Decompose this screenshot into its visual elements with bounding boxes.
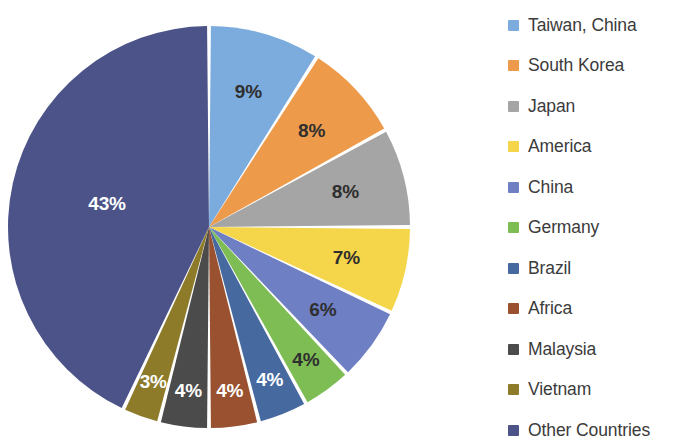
- legend-item[interactable]: America: [508, 127, 695, 168]
- legend-color-swatch-icon: [508, 101, 519, 112]
- pie-slice-label: 8%: [332, 181, 359, 202]
- legend-color-swatch-icon: [508, 263, 519, 274]
- legend-item-label: Vietnam: [528, 379, 591, 400]
- pie-plot-area: 9%8%8%7%6%4%4%4%4%3%43%: [0, 0, 440, 442]
- pie-svg: 9%8%8%7%6%4%4%4%4%3%43%: [0, 0, 440, 442]
- legend-color-swatch-icon: [508, 303, 519, 314]
- legend-color-swatch-icon: [508, 222, 519, 233]
- legend-color-swatch-icon: [508, 182, 519, 193]
- legend-item[interactable]: Taiwan, China: [508, 5, 695, 46]
- legend-color-swatch-icon: [508, 20, 519, 31]
- legend-color-swatch-icon: [508, 384, 519, 395]
- legend-item-label: China: [528, 177, 573, 198]
- legend-item[interactable]: Japan: [508, 86, 695, 127]
- pie-slice-label: 43%: [88, 193, 126, 214]
- pie-slice-label: 4%: [256, 369, 283, 390]
- legend-item-label: Other Countries: [528, 420, 650, 441]
- legend-item[interactable]: Brazil: [508, 248, 695, 289]
- legend-item[interactable]: Vietnam: [508, 370, 695, 411]
- legend-item-label: Africa: [528, 298, 572, 319]
- legend-item[interactable]: Africa: [508, 289, 695, 330]
- legend-item-label: America: [528, 136, 591, 157]
- legend-item-label: South Korea: [528, 55, 624, 76]
- legend-item[interactable]: China: [508, 167, 695, 208]
- legend-item-label: Germany: [528, 217, 599, 238]
- legend-item-label: Japan: [528, 96, 575, 117]
- legend-item[interactable]: Germany: [508, 208, 695, 249]
- pie-slice-label: 6%: [309, 299, 336, 320]
- legend-item[interactable]: Other Countries: [508, 410, 695, 442]
- legend-item-label: Brazil: [528, 258, 571, 279]
- pie-slice-label: 4%: [175, 380, 202, 401]
- chart-legend: Taiwan, ChinaSouth KoreaJapanAmericaChin…: [508, 0, 695, 442]
- pie-slice-label: 3%: [140, 371, 167, 392]
- legend-color-swatch-icon: [508, 141, 519, 152]
- legend-color-swatch-icon: [508, 60, 519, 71]
- legend-item[interactable]: Malaysia: [508, 329, 695, 370]
- pie-slice-label: 7%: [333, 247, 360, 268]
- pie-slice-label: 4%: [216, 380, 243, 401]
- pie-slice-label: 8%: [298, 120, 325, 141]
- legend-color-swatch-icon: [508, 425, 519, 436]
- pie-slice-label: 4%: [292, 349, 319, 370]
- legend-item[interactable]: South Korea: [508, 46, 695, 87]
- legend-color-swatch-icon: [508, 344, 519, 355]
- pie-chart: 9%8%8%7%6%4%4%4%4%3%43% Taiwan, ChinaSou…: [0, 0, 695, 442]
- pie-slice-label: 9%: [235, 81, 262, 102]
- legend-item-label: Taiwan, China: [528, 15, 637, 36]
- legend-item-label: Malaysia: [528, 339, 596, 360]
